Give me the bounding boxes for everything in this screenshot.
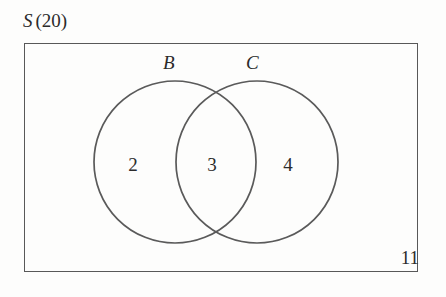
- set-label-b: B: [163, 53, 175, 72]
- region-count-b-only: 2: [120, 155, 146, 174]
- set-label-c: C: [246, 53, 259, 72]
- region-count-outside: 11: [389, 248, 419, 267]
- venn-diagram-figure: S(20) B C 2 3 4 11: [0, 0, 446, 297]
- region-count-c-only: 4: [275, 155, 301, 174]
- set-circle-b: [94, 81, 256, 243]
- region-count-intersection: 3: [199, 155, 225, 174]
- venn-circles: [0, 0, 446, 297]
